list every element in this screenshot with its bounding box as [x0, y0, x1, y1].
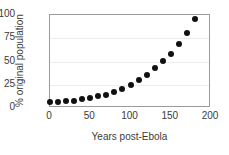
data-point [184, 30, 190, 36]
data-point [55, 99, 61, 105]
data-point [111, 89, 117, 95]
data-point [103, 92, 109, 98]
x-tick-label: 150 [155, 111, 185, 121]
data-point [79, 96, 85, 102]
data-point [71, 98, 77, 104]
data-point [87, 95, 93, 101]
data-point [47, 99, 53, 105]
ebola-population-recovery-chart: 0255075100 050100150200 % original popul… [0, 0, 229, 155]
data-point [192, 16, 198, 22]
plot-area [49, 14, 210, 107]
data-point [119, 86, 125, 92]
x-axis-title: Years post-Ebola [49, 131, 210, 142]
x-tick-label: 0 [34, 111, 64, 121]
data-point [168, 51, 174, 57]
scatter-series [50, 15, 209, 106]
data-point [144, 72, 150, 78]
y-axis-title: % original population [14, 1, 25, 121]
data-point [160, 58, 166, 64]
x-tick-label: 50 [74, 111, 104, 121]
data-point [128, 82, 134, 88]
x-tick-label: 100 [115, 111, 145, 121]
data-point [136, 77, 142, 83]
x-tick-label: 200 [195, 111, 225, 121]
data-point [95, 93, 101, 99]
data-point [63, 98, 69, 104]
data-point [152, 65, 158, 71]
data-point [176, 41, 182, 47]
